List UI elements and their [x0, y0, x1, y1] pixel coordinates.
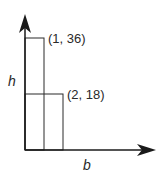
rectangle-1-label: (1, 36): [48, 31, 86, 46]
diagram-canvas: (1, 36) (2, 18) h b: [0, 0, 168, 178]
y-axis-label: h: [8, 73, 16, 89]
rectangle-2-label: (2, 18): [67, 87, 105, 102]
x-axis-label: b: [83, 157, 91, 173]
